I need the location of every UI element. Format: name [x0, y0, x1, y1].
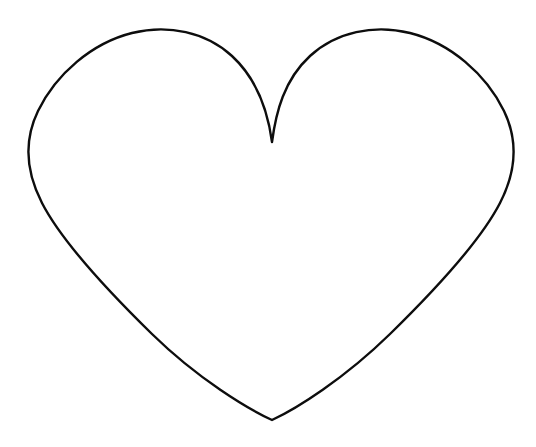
background-rect	[0, 0, 536, 447]
image-canvas	[0, 0, 536, 447]
heart-illustration	[0, 0, 536, 447]
